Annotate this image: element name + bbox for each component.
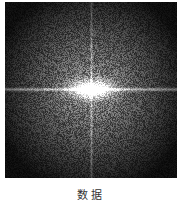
spectrum-image [5,2,177,178]
figure-caption: 数据 [0,186,182,202]
spectrum-canvas [5,2,177,178]
